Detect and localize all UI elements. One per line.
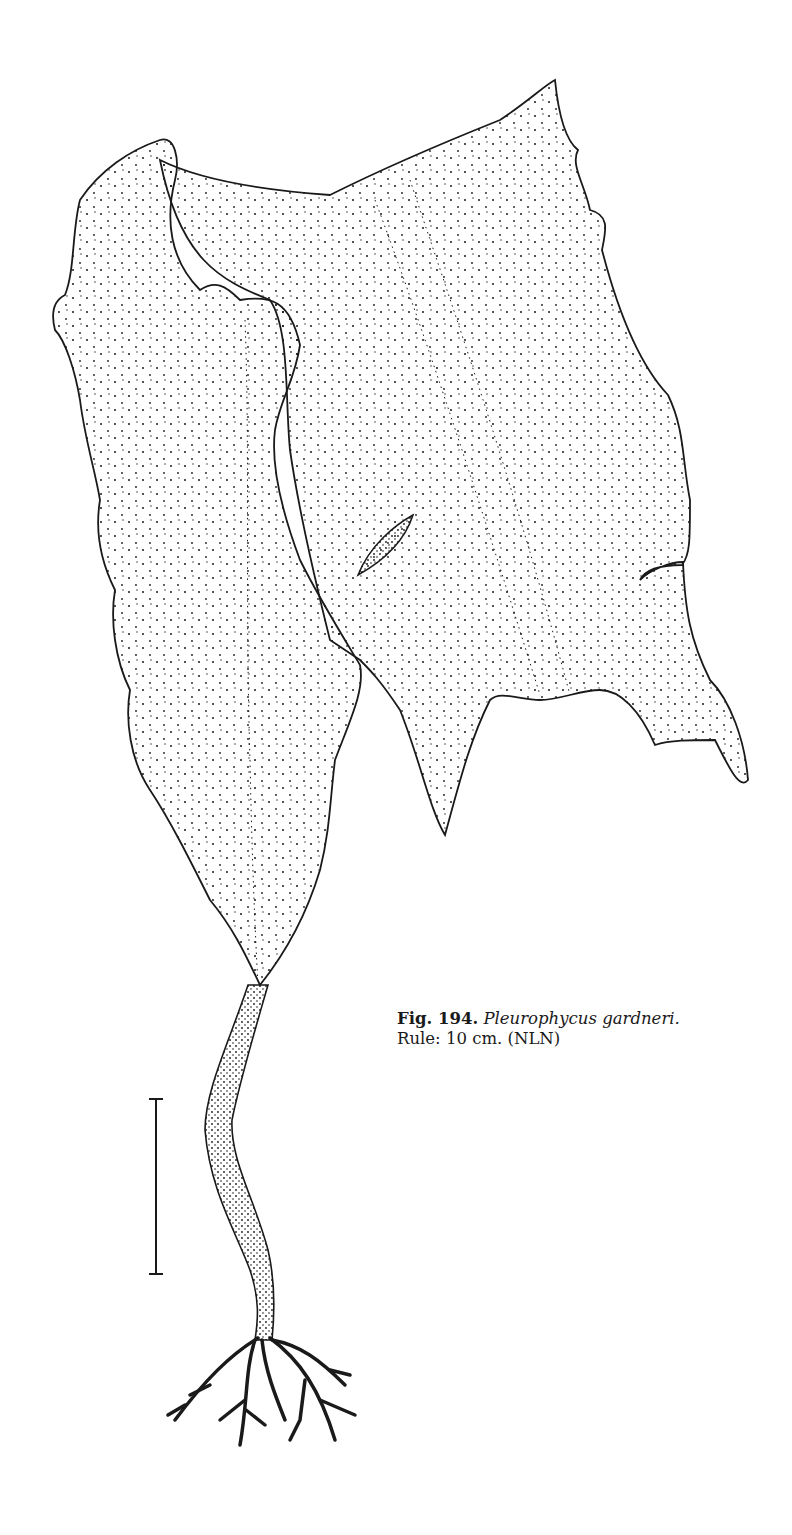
scale-bar [149,1099,163,1274]
figure-plate: Fig. 194. Pleurophycus gardneri. Rule: 1… [0,0,792,1535]
figure-number: Fig. 194. [397,1009,478,1028]
holdfast [168,1338,355,1445]
caption-line-1: Fig. 194. Pleurophycus gardneri. [397,1009,680,1029]
figure-caption: Fig. 194. Pleurophycus gardneri. Rule: 1… [397,1009,680,1049]
species-name: Pleurophycus gardneri. [483,1009,679,1028]
scale-rule-text: Rule: 10 cm. (NLN) [397,1029,680,1049]
kelp-illustration [0,0,792,1535]
stipe [205,985,274,1340]
